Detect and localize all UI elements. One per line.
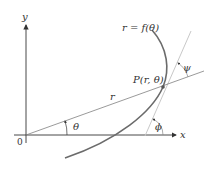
radial-line [26, 71, 204, 135]
origin-label: 0 [17, 137, 23, 147]
theta-arc [65, 121, 67, 135]
diagram-svg: y x 0 r = f(θ) P(r, θ) r θ ψ ϕ [0, 0, 216, 170]
theta-label: θ [73, 121, 79, 132]
psi-label: ψ [183, 62, 191, 73]
polar-tangent-diagram: y x 0 r = f(θ) P(r, θ) r θ ψ ϕ [0, 0, 216, 170]
polar-curve [65, 30, 167, 158]
curve-label: r = f(θ) [122, 22, 159, 33]
y-axis-label: y [21, 11, 28, 22]
radius-label: r [110, 91, 116, 102]
x-axis-label: x [180, 129, 186, 140]
point-p [161, 85, 165, 89]
point-label: P(r, θ) [132, 74, 164, 85]
phi-label: ϕ [155, 121, 162, 132]
